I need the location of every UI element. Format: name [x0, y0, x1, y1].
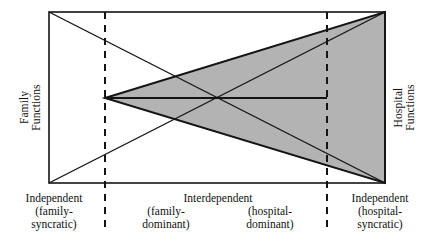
zone1-line3: syncratic) [6, 218, 102, 231]
zone2-hospital-dominant: (hospital- dominant) [222, 205, 318, 231]
zone-label-independent-hospital-syncratic: Independent (hospital- syncratic) [332, 192, 428, 232]
zone2-hospital-dominant-line2: dominant) [222, 218, 318, 231]
zone1-line2: (family- [6, 205, 102, 218]
hospital-functions-axis-line1: Hospital [393, 69, 405, 147]
family-functions-axis-line1: Family [19, 69, 31, 147]
continuum-diagram-figure: Family Functions Hospital Functions Inde… [0, 0, 433, 250]
zone2-family-dominant-line2: dominant) [118, 218, 214, 231]
hospital-functions-axis-label: Hospital Functions [393, 69, 416, 147]
zone2-hospital-dominant-line1: (hospital- [222, 205, 318, 218]
zone2-family-dominant: (family- dominant) [118, 205, 214, 231]
zone1-line1: Independent [6, 192, 102, 205]
zone-label-interdependent: Interdependent (family- dominant) (hospi… [112, 192, 324, 232]
family-functions-axis-line2: Functions [30, 69, 42, 147]
hospital-functions-axis-line2: Functions [404, 69, 416, 147]
zone2-heading: Interdependent [112, 192, 324, 205]
zone3-line1: Independent [332, 192, 428, 205]
zone-label-independent-family-syncratic: Independent (family- syncratic) [6, 192, 102, 232]
zone3-line3: syncratic) [332, 218, 428, 231]
zone2-family-dominant-line1: (family- [118, 205, 214, 218]
family-functions-axis-label: Family Functions [19, 69, 42, 147]
zone2-subcolumns: (family- dominant) (hospital- dominant) [112, 205, 324, 231]
zone3-line2: (hospital- [332, 205, 428, 218]
